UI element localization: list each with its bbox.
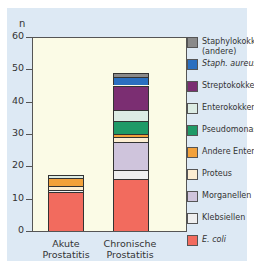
category-label-line: Prostatitis: [38, 249, 94, 260]
category-label-akute: Akute Prostatitis: [38, 238, 94, 260]
bar-segment: [113, 142, 149, 169]
legend-label: E. coli: [202, 235, 226, 245]
legend-swatch: [187, 81, 198, 92]
bar-segment: [113, 86, 149, 110]
category-label-line: Chronische: [100, 238, 160, 249]
category-label-line: Akute: [38, 238, 94, 249]
bar-segment: [48, 186, 84, 189]
legend-swatch: [187, 125, 198, 136]
bar-segment: [113, 73, 149, 78]
bar-segment: [48, 192, 84, 231]
legend-swatch: [187, 169, 198, 180]
legend-swatch: [187, 235, 198, 246]
legend-label: Streptokokken: [202, 81, 254, 91]
legend-swatch: [187, 59, 198, 70]
y-tick-label: 60: [4, 30, 24, 41]
bar-segment: [113, 121, 149, 134]
legend-swatch: [187, 147, 198, 158]
bar-segment: [48, 175, 84, 178]
legend-swatch: [187, 103, 198, 114]
bar-segment: [113, 134, 149, 137]
y-tick-label: 0: [4, 224, 24, 235]
category-label-chronische: Chronische Prostatitis: [100, 238, 160, 260]
legend-swatch: [187, 213, 198, 224]
legend-swatch: [187, 37, 198, 48]
legend-label: Enterokokken: [202, 103, 254, 113]
y-tick-label: 40: [4, 95, 24, 106]
bar-segment: [113, 179, 149, 231]
bar-segment: [48, 178, 84, 186]
legend-label: Morganellen: [202, 191, 251, 201]
y-tick-label: 10: [4, 192, 24, 203]
legend-swatch: [187, 191, 198, 202]
category-label-line: Prostatitis: [100, 249, 160, 260]
y-tick-label: 20: [4, 159, 24, 170]
bar-segment: [113, 170, 149, 180]
y-tick-label: 50: [4, 62, 24, 73]
bar-segment: [113, 77, 149, 85]
legend-label: Staph. aureus: [202, 59, 254, 69]
legend-label: Klebsiellen: [202, 213, 245, 223]
y-axis-label: n: [19, 18, 25, 29]
legend-label: Proteus: [202, 169, 232, 179]
x-axis-line: [26, 231, 187, 232]
bar-segment: [113, 110, 149, 121]
bar-segment: [48, 190, 84, 193]
legend-label: Pseudomonas: [202, 125, 254, 135]
y-tick-label: 30: [4, 127, 24, 138]
legend-label: Andere Enterobakt.: [202, 147, 254, 157]
bar-segment: [113, 137, 149, 142]
legend-label: Staphylokokken(andere): [202, 37, 254, 57]
